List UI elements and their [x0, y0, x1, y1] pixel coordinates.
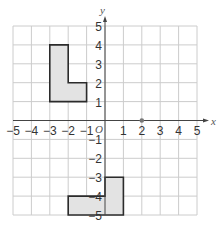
y-tick-label: −2: [88, 152, 102, 166]
points: [140, 118, 145, 123]
y-tick-label: 1: [95, 96, 102, 110]
y-tick-label: −4: [88, 190, 102, 204]
y-tick-label: −1: [88, 133, 102, 147]
center-point: [140, 118, 145, 123]
x-tick-label: −3: [43, 124, 57, 138]
x-tick-label: 4: [175, 124, 182, 138]
x-tick-label: −4: [25, 124, 39, 138]
x-tick-label: 2: [138, 124, 145, 138]
x-tick-label: 1: [120, 124, 127, 138]
y-tick-label: 5: [95, 20, 102, 34]
y-tick-label: −3: [88, 171, 102, 185]
x-axis-arrow-icon: [203, 119, 209, 123]
y-tick-label: −5: [88, 209, 102, 223]
x-tick-label: 3: [157, 124, 164, 138]
y-tick-label: 4: [95, 39, 102, 53]
y-tick-label: 2: [95, 77, 102, 91]
x-tick-label: 5: [194, 124, 201, 138]
y-axis-label: y: [99, 4, 105, 16]
x-axis-label: x: [210, 115, 216, 127]
upper-l-shape: [50, 45, 87, 102]
x-tick-label: −5: [6, 124, 20, 138]
y-tick-label: 3: [95, 58, 102, 72]
y-axis-arrow-icon: [103, 16, 107, 22]
tick-labels: −5−4−3−2−11234554321−1−2−3−4−5: [6, 20, 201, 223]
origin-label: O: [95, 123, 103, 135]
coordinate-grid: −5−4−3−2−11234554321−1−2−3−4−5 x y O: [0, 0, 221, 227]
x-tick-label: −2: [61, 124, 75, 138]
